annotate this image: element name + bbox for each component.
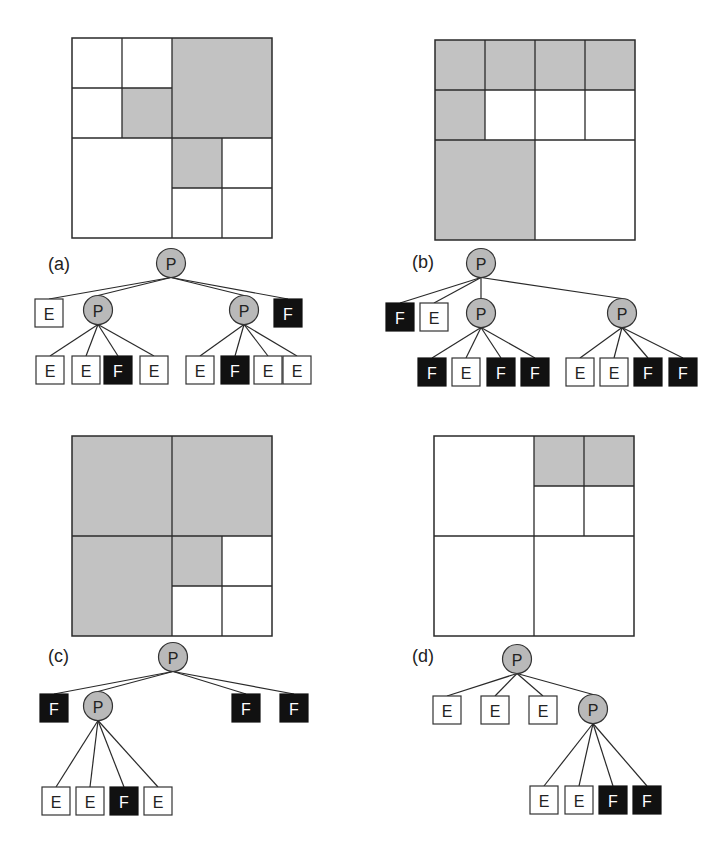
full-leaf-node: F [599, 786, 627, 814]
quadtree-tree: PEPPFEEFEEFEE [35, 249, 311, 385]
full-leaf-node: F [521, 358, 549, 386]
node-label: E [609, 365, 620, 382]
node-label: P [476, 306, 487, 323]
quadtree-grid [435, 40, 635, 240]
tree-edge [98, 278, 171, 296]
node-label: F [608, 793, 618, 810]
full-leaf-node: F [418, 358, 446, 386]
node-label: F [496, 365, 506, 382]
full-cell [172, 38, 272, 138]
empty-leaf-node: E [420, 303, 448, 331]
node-label: E [153, 794, 164, 811]
panel-label: (b) [412, 252, 434, 272]
tree-edge [54, 672, 173, 695]
empty-leaf-node: E [600, 358, 628, 386]
tree-edge [171, 278, 288, 300]
node-label: F [283, 306, 293, 323]
full-leaf-node: F [232, 694, 260, 722]
empty-leaf-node: E [566, 358, 594, 386]
tree-edge [98, 721, 158, 788]
tree-edge [481, 278, 622, 299]
empty-leaf-node: E [72, 356, 100, 384]
tree-edge [200, 325, 244, 357]
full-cell [435, 90, 485, 140]
full-cell [435, 140, 535, 240]
tree-edge [98, 721, 124, 788]
tree-edge [622, 328, 683, 359]
quadtree-figure: (a)PEPPFEEFEEFEE(b)PFEPPFEFFEEFF(c)PFPFF… [0, 0, 724, 843]
full-leaf-node: F [104, 356, 132, 384]
empty-leaf-node: E [530, 786, 558, 814]
quadtree-grid [72, 38, 272, 238]
tree-edge [98, 325, 154, 357]
tree-edge [235, 325, 244, 357]
empty-leaf-node: E [186, 356, 214, 384]
full-cell [72, 436, 172, 536]
empty-leaf-node: E [452, 358, 480, 386]
tree-edge [481, 328, 535, 359]
node-label: P [93, 303, 104, 320]
partial-node: P [230, 296, 259, 325]
node-label: E [81, 363, 92, 380]
empty-leaf-node: E [140, 356, 168, 384]
full-leaf-node: F [487, 358, 515, 386]
partial-node: P [579, 695, 608, 724]
node-label: P [476, 256, 487, 273]
empty-leaf-node: E [565, 786, 593, 814]
node-label: E [44, 306, 55, 323]
tree-edge [171, 278, 244, 296]
full-leaf-node: F [633, 786, 661, 814]
empty-leaf-node: E [35, 299, 63, 327]
node-label: F [230, 363, 240, 380]
full-cell [485, 40, 535, 90]
full-cell [535, 40, 585, 90]
node-label: E [575, 365, 586, 382]
tree-edge [481, 328, 501, 359]
empty-leaf-node: E [529, 696, 557, 724]
partial-node: P [608, 299, 637, 328]
node-label: P [166, 256, 177, 273]
quadtree-tree: PEEEPEEFF [433, 645, 661, 815]
full-cell [435, 40, 485, 90]
node-label: P [588, 702, 599, 719]
node-label: E [45, 363, 56, 380]
quadtree-tree: PFPFFEEFE [40, 643, 308, 816]
node-label: E [51, 794, 62, 811]
panel-a: (a)PEPPFEEFEEFEE [35, 38, 311, 384]
node-label: E [195, 363, 206, 380]
empty-leaf-node: E [144, 787, 172, 815]
partial-node: P [84, 692, 113, 721]
tree-edge [244, 325, 268, 357]
panel-label: (a) [48, 254, 70, 274]
quadtree-grid [72, 436, 272, 636]
panel-label: (d) [412, 646, 434, 666]
tree-edge [98, 325, 118, 357]
node-label: F [642, 793, 652, 810]
partial-node: P [503, 645, 532, 674]
full-cell [172, 536, 222, 586]
empty-leaf-node: E [283, 356, 311, 384]
full-leaf-node: F [280, 694, 308, 722]
full-leaf-node: F [669, 358, 697, 386]
node-label: F [289, 701, 299, 718]
node-label: E [292, 363, 303, 380]
tree-edge [98, 672, 173, 692]
node-label: E [263, 363, 274, 380]
partial-node: P [159, 643, 188, 672]
tree-edges [447, 674, 647, 787]
partial-node: P [157, 249, 186, 278]
partial-node: P [84, 296, 113, 325]
node-label: E [461, 365, 472, 382]
full-leaf-node: F [634, 358, 662, 386]
node-label: F [530, 365, 540, 382]
node-label: F [427, 365, 437, 382]
quadtree-grid [434, 436, 634, 636]
node-label: F [643, 365, 653, 382]
full-cell [122, 88, 172, 138]
empty-leaf-node: E [481, 696, 509, 724]
tree-edge [622, 328, 648, 359]
full-leaf-node: F [40, 694, 68, 722]
full-cell [72, 536, 172, 636]
full-cell [172, 138, 222, 188]
node-label: P [168, 650, 179, 667]
